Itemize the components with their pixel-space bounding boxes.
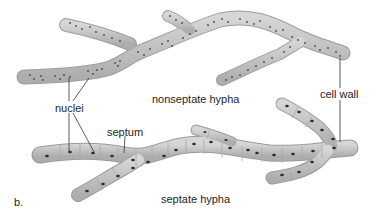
nonseptate-hypha-label: nonseptate hypha [152, 94, 239, 105]
septum-label: septum [107, 127, 143, 138]
septate-hypha [40, 104, 350, 195]
nonseptate-hypha [24, 15, 343, 81]
panel-label: b. [14, 197, 23, 208]
cell-wall-label: cell wall [320, 89, 359, 100]
septate-hypha-label: septate hypha [161, 194, 230, 205]
fungal-hyphae-diagram: nuclei nonseptate hypha cell wall septum… [0, 0, 387, 222]
nuclei-label: nuclei [55, 103, 84, 114]
